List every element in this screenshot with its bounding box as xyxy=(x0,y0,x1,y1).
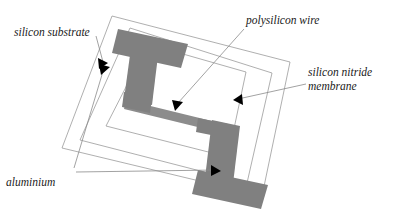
label-polysilicon-wire: polysilicon wire xyxy=(245,14,319,27)
label-silicon-nitride-line1: silicon nitride xyxy=(308,66,372,78)
mems-diagram-root: silicon substrate polysilicon wire silic… xyxy=(0,0,395,217)
label-silicon-nitride-line2: membrane xyxy=(308,80,357,92)
label-aluminium: aluminium xyxy=(6,176,55,188)
label-silicon-substrate: silicon substrate xyxy=(14,26,90,38)
mems-schematic-figure: silicon substrate polysilicon wire silic… xyxy=(0,0,395,217)
